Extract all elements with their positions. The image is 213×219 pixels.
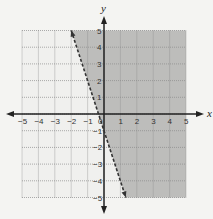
x-axis-label: x <box>206 107 212 119</box>
y-tick-label: 1 <box>97 93 102 102</box>
x-tick-label: −4 <box>34 117 44 126</box>
y-tick-label: 2 <box>97 77 102 86</box>
y-tick-label: −1 <box>93 127 103 136</box>
x-tick-label: 5 <box>184 117 189 126</box>
y-tick-label: 3 <box>97 60 102 69</box>
x-tick-label: −2 <box>67 117 77 126</box>
y-tick-label: −5 <box>93 194 103 203</box>
y-tick-label: −2 <box>93 143 103 152</box>
x-tick-label: 2 <box>135 117 140 126</box>
x-tick-label: −5 <box>18 117 28 126</box>
y-tick-label: −4 <box>93 177 103 186</box>
y-tick-label: −3 <box>93 160 103 169</box>
coordinate-plane: xy−5−4−3−2−101234554321−1−2−3−4−5 <box>0 0 213 219</box>
x-tick-label: −3 <box>51 117 61 126</box>
y-axis-up-arrow-icon <box>101 16 107 24</box>
x-tick-label: 3 <box>151 117 156 126</box>
y-axis-label: y <box>100 2 106 14</box>
x-axis-right-arrow-icon <box>196 111 204 117</box>
y-tick-label: 5 <box>97 27 102 36</box>
y-axis-down-arrow-icon <box>101 206 107 214</box>
x-tick-label: 4 <box>168 117 173 126</box>
y-tick-label: 4 <box>97 43 102 52</box>
x-tick-label: 1 <box>118 117 123 126</box>
x-axis-left-arrow-icon <box>6 111 14 117</box>
x-tick-label: −1 <box>84 117 94 126</box>
